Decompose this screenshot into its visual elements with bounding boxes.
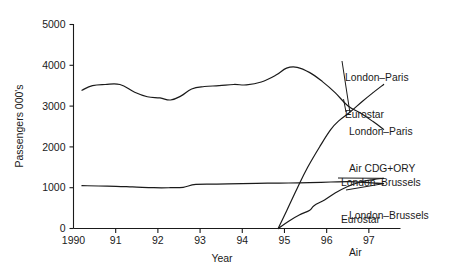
x-tick-label: 91 [110,234,122,246]
x-tick-label: 94 [236,234,248,246]
label-line-1: London–Paris [345,72,409,84]
series-line-0 [82,67,384,130]
label-london-brussels-air: London–Brussels Air [349,185,429,270]
series-line-3 [82,182,384,188]
x-axis-title: Year [211,252,233,264]
y-tick-label: 4000 [42,59,66,71]
x-tick-label: 95 [279,234,291,246]
y-axis-tick-labels: 010002000300040005000 [42,18,66,234]
x-tick-label: 92 [152,234,164,246]
x-tick-label: 96 [321,234,333,246]
y-tick-label: 3000 [42,100,66,112]
y-axis-title: Passengers 000's [13,84,25,167]
line-chart: 010002000300040005000 199091929394959697… [0,0,454,270]
y-tick-label: 2000 [42,141,66,153]
x-axis-tick-labels: 199091929394959697 [62,234,375,246]
label-line-2: Air [349,247,429,259]
y-tick-label: 1000 [42,181,66,193]
label-line-1: London–Paris [349,126,415,138]
label-line-1: London–Brussels [349,210,429,222]
x-tick-label: 1990 [62,234,86,246]
y-tick-label: 5000 [42,18,66,30]
x-axis-ticks [116,229,369,234]
series-lines [82,67,384,229]
y-tick-label: 0 [60,222,66,234]
y-axis-ticks [70,25,74,229]
x-tick-label: 93 [194,234,206,246]
